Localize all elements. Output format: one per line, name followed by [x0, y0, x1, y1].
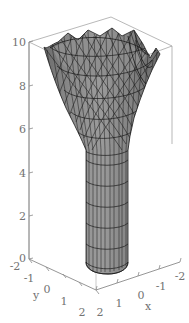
y-axis-label: y [32, 289, 40, 302]
z-tick-label: 4 [19, 167, 26, 180]
y-tick-label: 1 [61, 295, 68, 308]
x-tick-label: -2 [175, 270, 186, 283]
z-tick-label: 10 [12, 36, 26, 49]
z-tick-label: 2 [19, 210, 26, 223]
x-tick-label: 2 [97, 306, 104, 319]
y-tick-label: 0 [44, 283, 51, 296]
x-tick-label: 0 [138, 289, 145, 302]
x-tick-label: -1 [156, 280, 167, 293]
y-tick-label: -1 [24, 272, 35, 285]
z-tick-label: 8 [19, 80, 26, 93]
surface-plot-figure: 10 8 6 4 2 0 -2 -1 0 1 2 y 2 1 0 -1 -2 x [0, 0, 189, 323]
x-axis-label: x [145, 300, 152, 313]
x-tick-label: 1 [116, 297, 123, 310]
y-tick-label: -2 [10, 260, 21, 273]
z-tick-label: 6 [19, 123, 26, 136]
y-tick-label: 2 [79, 306, 86, 319]
